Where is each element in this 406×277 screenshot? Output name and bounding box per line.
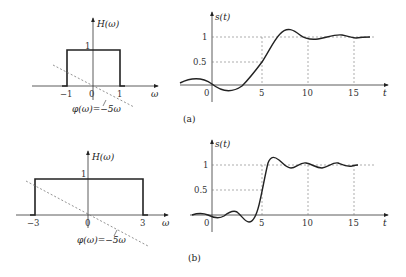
panel-a-spectrum: H(ω) 1 −1 0 1 ω φ(ω)=−5ω	[32, 18, 159, 114]
amp-label: 1	[81, 169, 86, 179]
step-response-curve	[192, 157, 358, 222]
ytick-05: 0.5	[194, 185, 208, 195]
h-label: H(ω)	[91, 152, 115, 162]
h-label: H(ω)	[96, 19, 120, 29]
phase-label: φ(ω)=−5ω	[77, 235, 126, 245]
panel-b-spectrum: H(ω) 1 −3 0 3 ω φ(ω)=−5ω	[16, 151, 170, 246]
xtick-15: 15	[348, 88, 359, 98]
panel-b-response: s(t) 1 0.5 0 5 10 15 t (b)	[188, 139, 388, 263]
tick-zero: 0	[85, 218, 90, 228]
t-label: t	[383, 218, 387, 228]
panel-a-response: s(t) 1 0.5 0 5 10 15 t (a)	[180, 12, 388, 124]
xtick-10: 10	[302, 88, 313, 98]
ytick-1: 1	[203, 160, 208, 170]
magnitude-rect	[30, 179, 148, 215]
s-label: s(t)	[215, 12, 231, 22]
amp-label: 1	[85, 41, 90, 51]
omega-label: ω	[162, 218, 170, 228]
tick-neg: −1	[60, 89, 73, 99]
guide-lines	[212, 165, 376, 215]
xtick-5: 5	[259, 218, 264, 228]
tick-zero: 0	[89, 89, 94, 99]
caption-b: (b)	[188, 253, 201, 263]
phase-label: φ(ω)=−5ω	[72, 104, 121, 114]
tick-pos: 1	[117, 89, 122, 99]
tick-pos: 3	[140, 218, 145, 228]
xtick-5: 5	[259, 88, 264, 98]
xtick-0: 0	[204, 88, 209, 98]
t-label: t	[383, 88, 387, 98]
ytick-05: 0.5	[193, 57, 207, 67]
omega-label: ω	[151, 89, 159, 99]
xtick-0: 0	[204, 218, 209, 228]
caption-a: (a)	[183, 114, 195, 124]
tick-neg: −3	[27, 218, 40, 228]
ytick-1: 1	[202, 32, 207, 42]
xtick-15: 15	[348, 218, 359, 228]
xtick-10: 10	[302, 218, 313, 228]
figure-canvas: H(ω) 1 −1 0 1 ω φ(ω)=−5ω s(t) 1 0.5 0 5 …	[0, 0, 406, 277]
guide-lines	[212, 37, 376, 85]
s-label: s(t)	[215, 139, 231, 149]
magnitude-rect	[62, 50, 125, 86]
step-response-curve	[180, 29, 370, 90]
